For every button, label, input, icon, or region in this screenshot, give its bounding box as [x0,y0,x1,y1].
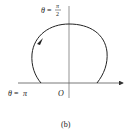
svg-text:θ: θ [8,89,12,98]
origin-label: O [58,89,64,98]
svg-text:=: = [14,89,19,98]
svg-text:θ: θ [41,6,45,15]
svg-text:=: = [47,6,52,15]
polar-diagram: θ = π 2 θ = π O (b) [0,0,131,138]
label-theta-pi: θ = π [8,89,28,98]
svg-text:2: 2 [56,11,59,17]
polar-curve [32,24,107,83]
svg-text:π: π [23,89,28,98]
figure-caption: (b) [61,120,71,129]
svg-text:π: π [56,3,60,9]
label-theta-pi-over-2: θ = π 2 [41,3,61,17]
direction-arrow-icon [37,38,43,45]
